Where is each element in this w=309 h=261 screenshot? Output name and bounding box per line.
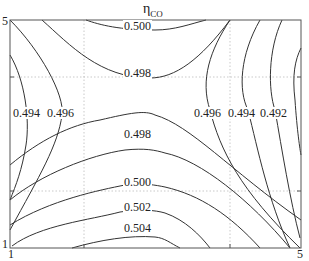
x-tick-max: 5 — [297, 248, 303, 260]
contour-plot — [0, 0, 309, 261]
axes-frame — [10, 20, 301, 248]
contour-label-right-0496: 0.496 — [193, 107, 222, 119]
contour-label-upper-0498: 0.498 — [123, 67, 152, 79]
contour-label-right-0492: 0.492 — [259, 107, 288, 119]
x-tick-min: 1 — [8, 248, 14, 260]
grid-lines — [10, 20, 301, 248]
contour-label-right-0494: 0.494 — [227, 107, 256, 119]
contour-label-lower-0498: 0.498 — [123, 128, 152, 140]
contour-label-left-0494: 0.494 — [12, 107, 41, 119]
contour-label-left-0496: 0.496 — [46, 107, 75, 119]
contour-label-lower-0502: 0.502 — [123, 201, 152, 213]
contour-lines — [10, 20, 301, 248]
chart-title: ηCO — [143, 2, 163, 21]
contour-label-lower-0504: 0.504 — [123, 222, 152, 234]
contour-label-lower-0500: 0.500 — [123, 176, 152, 188]
y-tick-max: 5 — [2, 15, 8, 27]
title-subscript: CO — [150, 9, 163, 19]
contour-label-top-0500: 0.500 — [123, 20, 152, 32]
